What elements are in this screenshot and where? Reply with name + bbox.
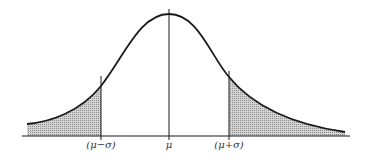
- left-tail-shading: [27, 86, 101, 136]
- mean-label: μ: [166, 139, 173, 150]
- minus-sigma-label: (μ−σ): [86, 139, 116, 150]
- plus-sigma-label: (μ+σ): [214, 139, 244, 150]
- normal-curve-diagram: [0, 0, 368, 164]
- right-tail-shading: [229, 77, 345, 136]
